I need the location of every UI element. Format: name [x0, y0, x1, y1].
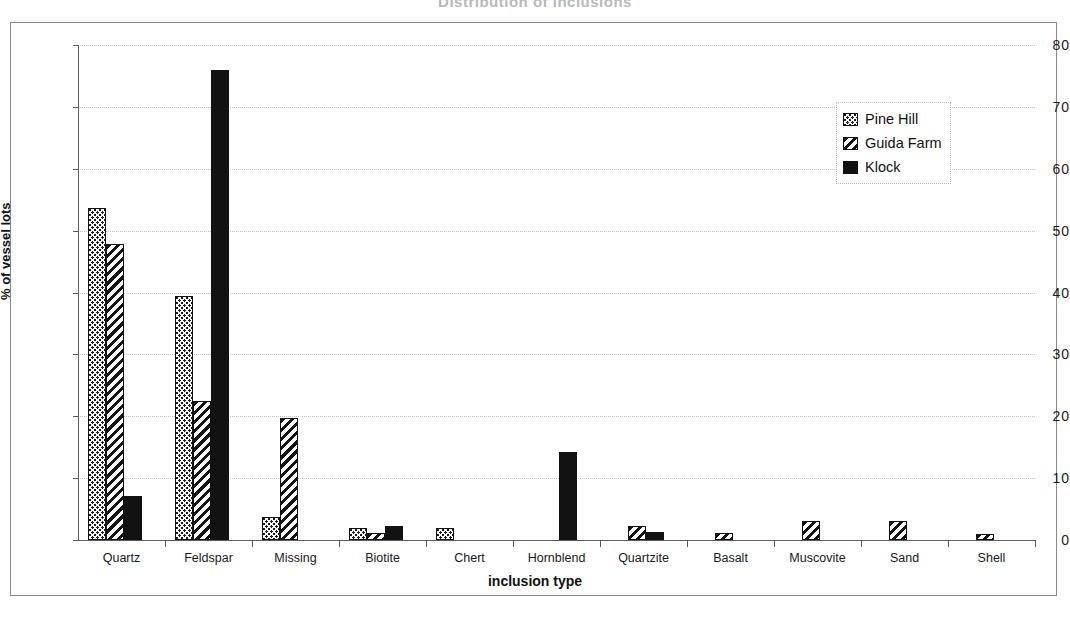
bar-guida-farm-missing [280, 418, 298, 541]
x-tick-label-sand: Sand [890, 551, 919, 565]
x-tick-mark [165, 540, 166, 547]
bar-guida-farm-muscovite [802, 521, 820, 540]
x-tick-label-basalt: Basalt [713, 551, 748, 565]
legend-item-klock[interactable]: Klock [843, 155, 942, 179]
x-tick-mark [513, 540, 514, 547]
legend: Pine HillGuida FarmKlock [836, 102, 951, 184]
x-tick-mark [600, 540, 601, 547]
legend-label: Guida Farm [865, 135, 942, 151]
x-tick-label-missing: Missing [274, 551, 316, 565]
x-tick-label-quartzite: Quartzite [618, 551, 669, 565]
bar-guida-farm-shell [976, 534, 994, 540]
bar-guida-farm-quartzite [628, 526, 646, 540]
chart-container: Distribution of Inclusions % of vessel l… [0, 0, 1070, 631]
bar-guida-farm-biotite [367, 533, 385, 540]
bar-pine-hill-chert [436, 528, 454, 540]
bar-guida-farm-sand [889, 521, 907, 540]
x-tick-mark [687, 540, 688, 547]
legend-item-pine-hill[interactable]: Pine Hill [843, 107, 942, 131]
legend-swatch-icon-pine-hill [843, 113, 858, 126]
bar-klock-biotite [385, 526, 403, 540]
x-tick-label-shell: Shell [978, 551, 1006, 565]
bar-klock-feldspar [211, 70, 229, 540]
x-tick-label-feldspar: Feldspar [184, 551, 233, 565]
x-tick-label-hornblend: Hornblend [528, 551, 586, 565]
bar-pine-hill-quartz [88, 208, 106, 540]
bar-klock-quartz [124, 496, 142, 540]
x-tick-mark [774, 540, 775, 547]
x-tick-mark [252, 540, 253, 547]
bar-klock-hornblend [559, 452, 577, 540]
legend-item-guida-farm[interactable]: Guida Farm [843, 131, 942, 155]
x-tick-mark [339, 540, 340, 547]
bar-klock-quartzite [646, 532, 664, 540]
bar-pine-hill-missing [262, 517, 280, 540]
legend-label: Pine Hill [865, 111, 918, 127]
x-tick-mark [1035, 540, 1036, 547]
bar-guida-farm-quartz [106, 244, 124, 540]
legend-label: Klock [865, 159, 900, 175]
bar-pine-hill-feldspar [175, 296, 193, 540]
y-axis-title: % of vessel lots [0, 202, 13, 300]
x-tick-label-biotite: Biotite [365, 551, 400, 565]
bar-guida-farm-basalt [715, 533, 733, 540]
x-axis-line [78, 540, 1036, 541]
legend-swatch-icon-klock [843, 161, 858, 174]
bar-pine-hill-biotite [349, 528, 367, 540]
x-axis-title: inclusion type [0, 573, 1070, 589]
x-tick-label-muscovite: Muscovite [789, 551, 845, 565]
x-tick-mark [948, 540, 949, 547]
x-tick-label-chert: Chert [454, 551, 485, 565]
chart-title: Distribution of Inclusions [0, 0, 1070, 10]
legend-swatch-icon-guida-farm [843, 137, 858, 150]
x-tick-mark [861, 540, 862, 547]
x-tick-label-quartz: Quartz [103, 551, 141, 565]
x-tick-mark [426, 540, 427, 547]
bar-guida-farm-feldspar [193, 401, 211, 540]
